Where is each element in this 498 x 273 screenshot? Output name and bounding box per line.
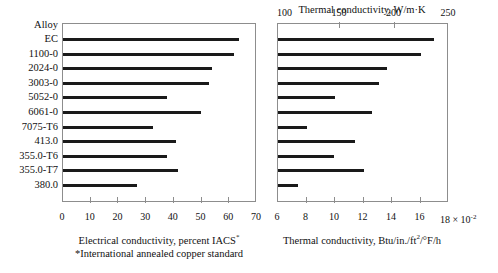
electrical-bar: [63, 184, 137, 187]
thermal-bar: [278, 169, 364, 172]
thermal-bottom-tick-label: 8: [303, 212, 308, 222]
alloy-row-label: 7075-T6: [0, 122, 60, 132]
electrical-tick: [90, 197, 91, 203]
electrical-tick-label: 50: [196, 212, 206, 222]
electrical-tick: [201, 197, 202, 203]
alloy-row-label: 380.0: [0, 180, 60, 190]
thermal-bottom-tick-label: 12: [358, 212, 368, 222]
alloy-row-label: EC: [0, 34, 60, 44]
alloy-row-label: 1100-0: [0, 49, 60, 59]
alloy-row-label: 355.0-T7: [0, 165, 60, 175]
alloy-row-label: 355.0-T6: [0, 151, 60, 161]
electrical-bar: [63, 67, 212, 70]
alloy-row-label: 413.0: [0, 136, 60, 146]
thermal-bar: [278, 96, 335, 99]
electrical-bar: [63, 140, 176, 143]
figure-root: Alloy EC1100-02024-03003-05052-06061-070…: [0, 0, 498, 273]
alloy-row-label: 3003-0: [0, 78, 60, 88]
thermal-bottom-tick-label: 16: [415, 212, 425, 222]
thermal-bar: [278, 38, 434, 41]
thermal-top-tick: [394, 22, 395, 28]
thermal-bar: [278, 53, 421, 56]
electrical-bar: [63, 96, 167, 99]
thermal-axis-multiplier: × 10-2: [450, 214, 476, 225]
electrical-tick-label: 40: [168, 212, 178, 222]
thermal-bar: [278, 111, 372, 114]
electrical-bar: [63, 82, 209, 85]
electrical-bar: [63, 126, 153, 129]
electrical-bar: [63, 169, 178, 172]
electrical-tick: [173, 197, 174, 203]
electrical-tick-label: 10: [85, 212, 95, 222]
electrical-tick-label: 30: [140, 212, 150, 222]
electrical-tick-label: 20: [112, 212, 122, 222]
alloy-row-label: 6061-0: [0, 107, 60, 117]
electrical-tick: [145, 197, 146, 203]
thermal-bottom-axis-title: Thermal conductivity, Btu/in./ft2/°F/h: [283, 232, 441, 246]
thermal-bottom-tick: [391, 197, 392, 203]
thermal-bar: [278, 155, 334, 158]
thermal-top-tick: [339, 22, 340, 28]
alloy-row-label: 2024-0: [0, 63, 60, 73]
thermal-top-axis-title: Thermal conductivity, W/m·K: [298, 4, 425, 15]
electrical-bar: [63, 38, 239, 41]
electrical-axis-title: Electrical conductivity, percent IACS*: [79, 232, 240, 246]
electrical-footnote: *International annealed copper standard: [75, 248, 243, 259]
alloy-column-header: Alloy: [0, 20, 60, 30]
alloy-row-label: 5052-0: [0, 92, 60, 102]
electrical-tick-label: 60: [223, 212, 233, 222]
electrical-bar: [63, 155, 167, 158]
thermal-bottom-tick-label: 6: [275, 212, 280, 222]
thermal-top-tick-label: 250: [441, 8, 456, 18]
thermal-bar: [278, 82, 379, 85]
thermal-bottom-tick: [363, 197, 364, 203]
thermal-bottom-tick: [306, 197, 307, 203]
thermal-bottom-tick-label: 10: [329, 212, 339, 222]
electrical-tick: [228, 197, 229, 203]
electrical-bar: [63, 53, 234, 56]
thermal-bar: [278, 126, 307, 129]
thermal-top-tick-label: 100: [277, 8, 292, 18]
thermal-bottom-tick: [334, 197, 335, 203]
thermal-bar: [278, 140, 355, 143]
thermal-bottom-tick: [420, 197, 421, 203]
electrical-bar: [63, 111, 201, 114]
thermal-bar: [278, 184, 298, 187]
thermal-bottom-tick-label: 14: [386, 212, 396, 222]
electrical-tick-label: 70: [251, 212, 261, 222]
thermal-bar: [278, 67, 387, 70]
thermal-bottom-tick-label: 18 × 10-2: [440, 212, 476, 225]
electrical-tick: [117, 197, 118, 203]
electrical-tick-label: 0: [60, 212, 65, 222]
